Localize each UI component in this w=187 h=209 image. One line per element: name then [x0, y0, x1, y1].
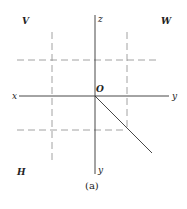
projection-diagram: V W H x y z y O (a) [0, 0, 187, 209]
label-y-axis-bottom: y [97, 165, 104, 175]
label-z-axis: z [97, 14, 103, 24]
label-W: W [161, 16, 172, 26]
diagonal-45-line [95, 96, 152, 153]
label-origin: O [96, 84, 104, 94]
label-x-axis: x [12, 91, 17, 101]
figure-caption: (a) [85, 180, 99, 191]
label-H: H [16, 167, 26, 177]
label-V: V [22, 16, 30, 26]
label-y-axis-right: y [171, 91, 178, 101]
